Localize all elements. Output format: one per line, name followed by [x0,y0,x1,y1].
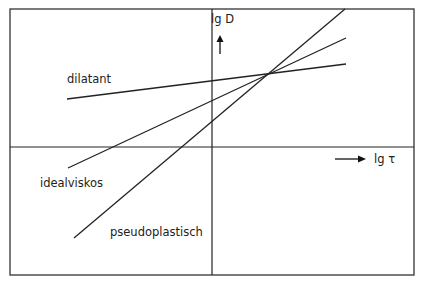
y-axis-label: lg D [211,12,234,26]
pseudoplastisch-line [74,9,345,238]
arrow-right-icon [335,156,366,163]
flow-curves-diagram [0,0,423,286]
idealviskos-line [68,38,346,168]
dilatant-label: dilatant [67,72,111,86]
arrow-up-icon [217,35,224,54]
idealviskos-label: idealviskos [40,176,103,190]
pseudoplastisch-label: pseudoplastisch [110,225,203,239]
x-axis-label: lg τ [374,152,395,166]
